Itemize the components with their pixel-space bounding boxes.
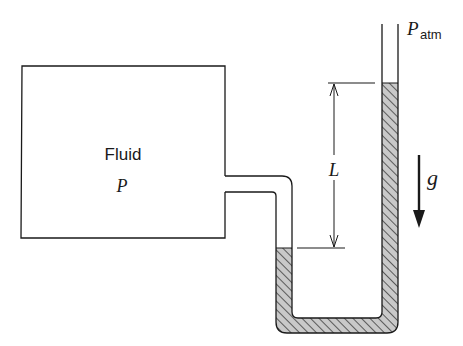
gravity-label: g (427, 165, 438, 190)
dimension-l: L (297, 83, 375, 248)
gravity-arrow-down-icon (413, 210, 425, 228)
connecting-pipe-inner (225, 24, 398, 333)
manometer-diagram: L g Fluid P P atm (0, 0, 463, 346)
manometer-liquid (276, 83, 398, 333)
fluid-label: Fluid (105, 145, 142, 164)
patm-symbol: P (406, 18, 419, 39)
patm-subscript: atm (420, 27, 442, 42)
container-pressure-label: P (116, 176, 128, 196)
gravity-indicator: g (413, 155, 438, 228)
atmospheric-pressure-label: P atm (406, 18, 442, 42)
dimension-label: L (328, 159, 340, 180)
connecting-pipe-outer (225, 24, 382, 318)
